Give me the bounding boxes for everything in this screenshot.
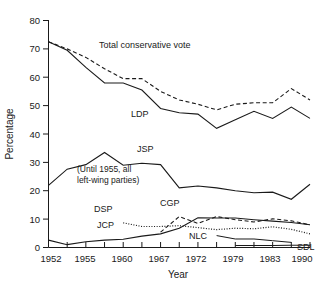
- series-label-nlc: NLC: [189, 231, 208, 241]
- election-vote-share-chart: 0 10 20 30 40 50 60 70 80 Percentage 195…: [0, 0, 324, 284]
- y-tick-label-0: 0: [35, 242, 40, 253]
- series-label-cgp: CGP: [160, 198, 180, 208]
- series-label-sdl: SDL: [297, 242, 315, 252]
- y-tick-label-40: 40: [29, 129, 40, 140]
- jsp-note-line-1: (Until 1955, all: [77, 164, 131, 174]
- chart-canvas: 0 10 20 30 40 50 60 70 80 Percentage 195…: [0, 0, 324, 284]
- y-tick-label-60: 60: [29, 72, 40, 83]
- series-label-jsp: JSP: [137, 144, 154, 154]
- series-label-total-conservative-vote: Total conservative vote: [99, 40, 191, 50]
- y-axis-tick-labels: 0 10 20 30 40 50 60 70 80: [29, 15, 40, 253]
- x-tick-label-1952: 1952: [40, 253, 61, 264]
- y-axis-title: Percentage: [4, 108, 15, 160]
- x-tick-label-1960: 1960: [111, 253, 132, 264]
- jsp-note-line-2: left-wing parties): [77, 175, 140, 185]
- x-tick-label-1990: 1990: [291, 253, 312, 264]
- y-tick-label-50: 50: [29, 100, 40, 111]
- y-tick-label-80: 80: [29, 15, 40, 26]
- series-label-dsp: DSP: [94, 204, 113, 214]
- y-tick-label-20: 20: [29, 185, 40, 196]
- x-tick-label-1979: 1979: [222, 253, 243, 264]
- x-tick-label-1972: 1972: [185, 253, 206, 264]
- y-tick-label-70: 70: [29, 43, 40, 54]
- x-axis-title: Year: [168, 269, 189, 280]
- y-tick-label-30: 30: [29, 157, 40, 168]
- x-tick-label-1955: 1955: [74, 253, 95, 264]
- x-tick-label-1967: 1967: [148, 253, 169, 264]
- x-tick-label-1983: 1983: [259, 253, 280, 264]
- series-label-ldp: LDP: [131, 109, 149, 119]
- series-label-jcp: JCP: [97, 220, 114, 230]
- y-tick-label-10: 10: [29, 214, 40, 225]
